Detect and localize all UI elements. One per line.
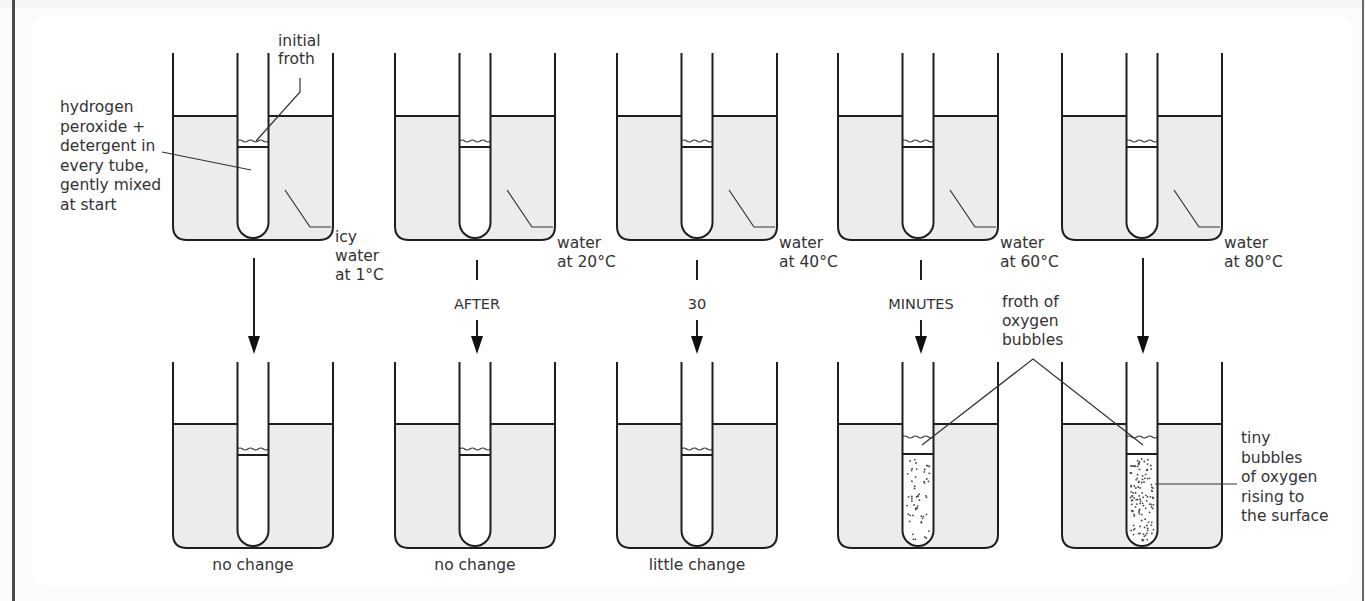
beaker-20c-after: [395, 362, 555, 548]
arrow-head-icon: [471, 336, 483, 354]
time-word-3: MINUTES: [888, 296, 953, 312]
arrow-head-icon: [691, 336, 703, 354]
arrow-head-icon: [1137, 336, 1149, 354]
beaker-40c-after: [617, 362, 777, 548]
arrow-head-icon: [248, 336, 260, 354]
water-label-1c: icywaterat 1°C: [335, 228, 384, 284]
result-label-20c: no change: [434, 556, 515, 574]
water-label-80c: waterat 80°C: [1224, 234, 1283, 271]
result-label-40c: little change: [649, 556, 746, 574]
beaker-1c-before: [173, 53, 333, 240]
beaker-80c-before: [1062, 53, 1222, 240]
beaker-40c-before: [617, 53, 777, 240]
initial-froth-label: initialfroth: [278, 32, 321, 68]
temperature-experiment-diagram: icywaterat 1°Cwaterat 20°Cwaterat 40°Cwa…: [0, 0, 1365, 601]
water-label-60c: waterat 60°C: [1000, 234, 1059, 271]
water-label-40c: waterat 40°C: [779, 234, 838, 271]
beaker-80c-after: [1062, 362, 1222, 548]
time-word-2: 30: [688, 296, 706, 312]
arrow-head-icon: [915, 336, 927, 354]
tiny-bubbles-label: tinybubblesof oxygenrising tothe surface: [1241, 429, 1329, 525]
beaker-20c-before: [395, 53, 555, 240]
time-word-1: AFTER: [454, 296, 500, 312]
beaker-60c-after: [838, 362, 998, 548]
result-label-1c: no change: [212, 556, 293, 574]
froth-bubbles-label: froth ofoxygenbubbles: [1002, 293, 1063, 349]
water-label-20c: waterat 20°C: [557, 234, 616, 271]
beaker-60c-before: [838, 53, 998, 240]
beaker-1c-after: [173, 362, 333, 548]
tube-contents-label: hydrogenperoxide +detergent inevery tube…: [60, 98, 161, 214]
